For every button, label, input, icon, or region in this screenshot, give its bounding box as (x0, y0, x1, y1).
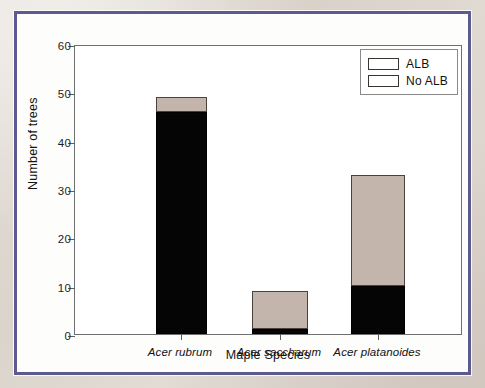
bar-segment-alb[interactable] (252, 329, 308, 334)
plot-panel: 0102030405060 ALB No ALB (74, 45, 462, 335)
legend-item-alb: ALB (368, 56, 448, 71)
y-axis-tick-label: 30 (58, 185, 71, 197)
y-axis-tick-label: 40 (58, 137, 71, 149)
y-axis-tick-label: 60 (58, 40, 71, 52)
x-axis-title: Maple Species (74, 348, 462, 362)
x-axis-tick-mark (378, 334, 379, 340)
chart-legend: ALB No ALB (360, 49, 458, 95)
bar-segment-alb[interactable] (156, 112, 207, 334)
bar-segment-no-alb[interactable] (252, 291, 308, 330)
legend-item-no-alb: No ALB (368, 73, 448, 88)
legend-label-no-alb: No ALB (406, 74, 448, 88)
bar-stack[interactable] (156, 44, 207, 334)
bar-segment-no-alb[interactable] (351, 175, 405, 286)
y-axis-tick-label: 50 (58, 88, 71, 100)
y-axis-tick-label: 20 (58, 233, 71, 245)
bar-segment-no-alb[interactable] (156, 97, 207, 112)
figure-inner-canvas: Number of trees 0102030405060 ALB No ALB (17, 14, 468, 372)
y-axis-tick-label: 0 (64, 330, 71, 342)
legend-swatch-alb (368, 58, 399, 70)
bar-segment-alb[interactable] (351, 286, 405, 334)
figure-frame: Number of trees 0102030405060 ALB No ALB (14, 11, 471, 375)
x-axis-tick-mark (280, 334, 281, 340)
y-axis-title: Number of trees (26, 97, 40, 190)
bar-stack[interactable] (252, 44, 308, 334)
legend-label-alb: ALB (406, 57, 429, 71)
y-axis-tick-label: 10 (58, 282, 71, 294)
x-axis-tick-mark (181, 334, 182, 340)
legend-swatch-no-alb (368, 75, 399, 87)
